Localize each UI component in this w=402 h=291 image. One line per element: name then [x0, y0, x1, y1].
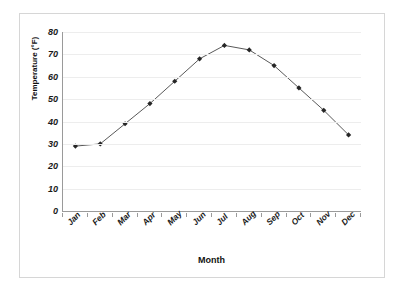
series-line: [75, 45, 348, 146]
data-point-marker: [247, 47, 252, 52]
x-axis-title: Month: [62, 255, 361, 265]
gridline: [63, 77, 361, 78]
x-axis-tick-mark: [211, 213, 212, 217]
gridline: [63, 122, 361, 123]
x-axis-tick-mark: [286, 213, 287, 217]
plot-area: [62, 32, 361, 212]
x-axis-tick-mark: [137, 213, 138, 217]
chart-figure: Temperature (°F) 80706050403020100 JanFe…: [19, 13, 385, 278]
gridline: [63, 166, 361, 167]
x-axis-tick-labels: JanFebMarAprMayJunJulAugSepOctNovDec: [62, 213, 361, 257]
x-axis-tick-mark: [261, 213, 262, 217]
x-axis-tick-mark: [87, 213, 88, 217]
gridline: [63, 189, 361, 190]
data-point-marker: [222, 43, 227, 48]
gridline: [63, 99, 361, 100]
y-axis-tick-label: 70: [24, 49, 58, 59]
y-axis-tick-label: 10: [24, 184, 58, 194]
x-axis-tick-mark: [335, 213, 336, 217]
x-axis-tick-mark: [112, 213, 113, 217]
x-axis-tick-mark: [62, 213, 63, 217]
gridline: [63, 54, 361, 55]
x-axis-tick-label: Apr: [140, 210, 157, 227]
x-axis-tick-label: Jan: [65, 210, 82, 227]
y-axis-tick-label: 80: [24, 27, 58, 37]
x-axis-tick-label: Jul: [214, 211, 230, 227]
x-axis-tick-mark: [310, 213, 311, 217]
y-axis-tick-label: 50: [24, 94, 58, 104]
y-axis-tick-label: 0: [24, 206, 58, 216]
y-axis-tick-labels: 80706050403020100: [20, 32, 58, 211]
y-axis-tick-label: 40: [24, 117, 58, 127]
x-axis-tick-mark: [161, 213, 162, 217]
y-axis-tick-label: 60: [24, 72, 58, 82]
x-axis-tick-mark: [186, 213, 187, 217]
x-axis-tick-mark: [360, 213, 361, 217]
gridline: [63, 32, 361, 33]
y-axis-tick-label: 20: [24, 161, 58, 171]
x-axis-tick-label: Oct: [289, 210, 306, 227]
x-axis-tick-mark: [236, 213, 237, 217]
gridline: [63, 144, 361, 145]
y-axis-tick-label: 30: [24, 139, 58, 149]
